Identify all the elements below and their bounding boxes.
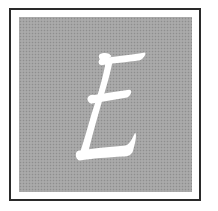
drop-cap-field: E bbox=[19, 17, 192, 192]
drop-cap-letter-e-icon bbox=[19, 17, 192, 192]
drop-cap-frame: E bbox=[9, 8, 201, 201]
